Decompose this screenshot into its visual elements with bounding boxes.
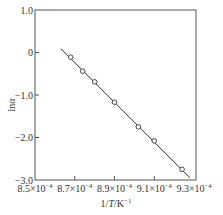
data-point-marker bbox=[112, 100, 117, 105]
y-axis-title-ln: ln bbox=[6, 104, 17, 112]
x-tick-label: 8.7×10−4 bbox=[57, 182, 93, 194]
data-point-marker bbox=[68, 55, 73, 60]
x-tick-label: 9.3×10−4 bbox=[176, 182, 212, 194]
x-tick-label: 8.5×10−4 bbox=[17, 182, 53, 194]
fit-line bbox=[61, 49, 190, 178]
chart: 1.00−1.0−2.0−3.0 8.5×10−48.7×10−48.9×10−… bbox=[0, 0, 223, 215]
data-point-marker bbox=[92, 80, 97, 85]
x-axis: 8.5×10−48.7×10−48.9×10−49.1×10−49.3×10−4 bbox=[17, 176, 212, 194]
x-tick-label: 8.9×10−4 bbox=[97, 182, 133, 194]
data-point-marker bbox=[180, 167, 185, 172]
y-tick-label: 1.0 bbox=[21, 5, 34, 16]
y-axis-title-alpha: α bbox=[6, 98, 17, 104]
x-axis-title: 1/T/K−1 bbox=[101, 197, 132, 209]
data-point-marker bbox=[152, 139, 157, 144]
y-tick-label: 0 bbox=[28, 47, 33, 58]
data-point-marker bbox=[80, 69, 85, 74]
plot-frame bbox=[35, 10, 196, 180]
y-tick-label: −1.0 bbox=[15, 90, 33, 101]
y-tick-label: −2.0 bbox=[15, 132, 33, 143]
y-axis-title: lnα bbox=[6, 98, 17, 112]
x-axis-title-sup: −1 bbox=[124, 197, 132, 205]
x-tick-label: 9.1×10−4 bbox=[137, 182, 173, 194]
data-point-marker bbox=[136, 125, 141, 130]
